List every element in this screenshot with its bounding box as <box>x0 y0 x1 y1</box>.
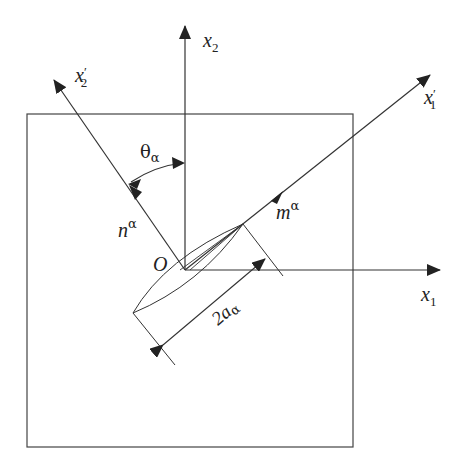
x1-prime-label: x′1 <box>423 86 436 112</box>
x2-prime-axis <box>54 80 185 270</box>
length-label: 2aα <box>207 295 243 331</box>
origin-label: O <box>153 253 167 275</box>
crack-midline-b <box>190 224 243 270</box>
x2-label: x2 <box>202 29 218 55</box>
dimension-line <box>163 259 265 345</box>
x1-prime-axis <box>185 75 430 270</box>
theta-arrow-left-icon <box>128 179 141 189</box>
theta-arrow-right-icon <box>172 157 185 169</box>
x2-prime-label: x′2 <box>74 64 87 90</box>
crack-midline-a <box>180 224 243 270</box>
m-alpha-label: mα <box>276 198 299 223</box>
crack-diagram: x2 x′2 x′1 x1 O θα nα mα 2aα <box>0 0 466 471</box>
n-alpha-label: nα <box>118 216 137 241</box>
extension-line-right <box>243 224 283 276</box>
x1-label: x1 <box>420 283 436 309</box>
extension-line-left <box>133 313 175 365</box>
theta-label: θα <box>140 141 160 165</box>
